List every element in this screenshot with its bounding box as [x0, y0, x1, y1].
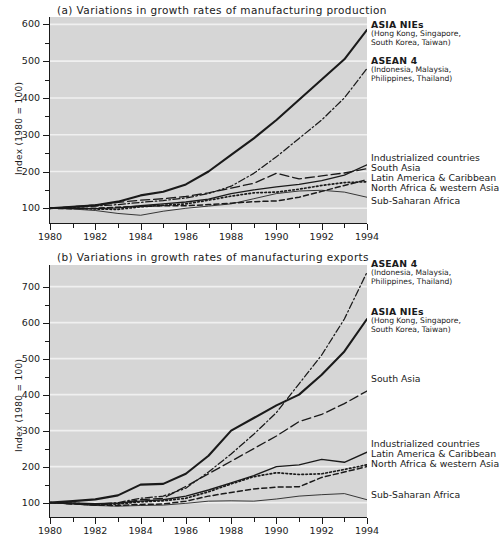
- y-tick-minor-650: [45, 305, 50, 306]
- legend-label: Sub-Saharan Africa: [371, 490, 460, 500]
- x-tick-minor-1985: [163, 224, 164, 228]
- x-tick-major-1988: [231, 224, 232, 230]
- series-line-sub-saharan-africa: [50, 190, 367, 215]
- chart-a-series-svg: [50, 17, 367, 223]
- legend-item-asia-nies[interactable]: ASIA NIEs(Hong Kong, Singapore,South Kor…: [371, 307, 461, 334]
- chart-a-title: (a) Variations in growth rates of manufa…: [57, 4, 387, 16]
- y-tick-label-500: 500: [3, 55, 40, 66]
- x-tick-label-1994: 1994: [345, 231, 389, 242]
- x-tick-major-1990: [276, 518, 277, 524]
- legend-item-sub-saharan-africa[interactable]: Sub-Saharan Africa: [371, 196, 460, 206]
- legend-label: South Asia: [371, 374, 420, 384]
- x-tick-minor-1983: [118, 518, 119, 522]
- y-tick-label-100: 100: [3, 497, 40, 508]
- legend-sublabel-2: South Korea, Taiwan): [371, 326, 461, 335]
- legend-item-asia-nies[interactable]: ASIA NIEs(Hong Kong, Singapore,South Kor…: [371, 20, 461, 47]
- x-tick-label-1986: 1986: [164, 231, 208, 242]
- y-tick-major-300: [43, 135, 50, 136]
- legend-label: North Africa & western Asia: [371, 459, 499, 469]
- y-tick-label-500: 500: [3, 353, 40, 364]
- chart-b-y-axis: [49, 265, 50, 518]
- x-tick-major-1982: [95, 518, 96, 524]
- y-tick-major-600: [43, 24, 50, 25]
- legend-label: Sub-Saharan Africa: [371, 196, 460, 206]
- x-tick-minor-1989: [254, 224, 255, 228]
- x-tick-label-1992: 1992: [300, 525, 344, 536]
- legend-item-north-africa-western-asia[interactable]: North Africa & western Asia: [371, 183, 499, 193]
- x-tick-major-1980: [50, 518, 51, 524]
- x-tick-label-1984: 1984: [119, 525, 163, 536]
- y-tick-label-100: 100: [3, 202, 40, 213]
- y-tick-minor-150: [45, 485, 50, 486]
- legend-sublabel-2: South Korea, Taiwan): [371, 39, 461, 48]
- x-tick-minor-1981: [73, 518, 74, 522]
- series-line-asean-4: [50, 69, 367, 209]
- y-tick-minor-450: [45, 80, 50, 81]
- y-tick-label-300: 300: [3, 129, 40, 140]
- legend-item-south-asia[interactable]: South Asia: [371, 374, 420, 384]
- y-tick-label-400: 400: [3, 389, 40, 400]
- chart-panel-b: (b) Variations in growth rates of manufa…: [0, 247, 499, 547]
- x-tick-label-1990: 1990: [254, 525, 298, 536]
- series-line-south-asia: [50, 391, 367, 505]
- figure-root: (a) Variations in growth rates of manufa…: [0, 0, 499, 559]
- y-tick-minor-550: [45, 341, 50, 342]
- x-tick-major-1994: [367, 224, 368, 230]
- x-tick-major-1984: [141, 224, 142, 230]
- chart-b-plot-area: [50, 265, 367, 517]
- chart-b-ylabel: Index (1980 = 100): [14, 359, 24, 452]
- x-tick-label-1994: 1994: [345, 525, 389, 536]
- x-tick-minor-1991: [299, 518, 300, 522]
- x-tick-label-1984: 1984: [119, 231, 163, 242]
- y-tick-major-400: [43, 98, 50, 99]
- x-tick-major-1988: [231, 518, 232, 524]
- x-tick-label-1982: 1982: [73, 231, 117, 242]
- legend-item-north-africa-western-asia[interactable]: North Africa & western Asia: [371, 459, 499, 469]
- series-line-south-asia: [50, 169, 367, 209]
- y-tick-minor-350: [45, 116, 50, 117]
- legend-item-asean-4[interactable]: ASEAN 4(Indonesia, Malaysia,Philippines,…: [371, 56, 452, 83]
- x-tick-major-1994: [367, 518, 368, 524]
- x-tick-major-1982: [95, 224, 96, 230]
- y-tick-major-500: [43, 61, 50, 62]
- chart-b-series-svg: [50, 265, 367, 517]
- y-tick-major-200: [43, 467, 50, 468]
- y-tick-label-400: 400: [3, 92, 40, 103]
- chart-panel-a: (a) Variations in growth rates of manufa…: [0, 0, 499, 252]
- y-tick-label-200: 200: [3, 166, 40, 177]
- y-tick-minor-450: [45, 377, 50, 378]
- x-tick-major-1980: [50, 224, 51, 230]
- y-tick-major-300: [43, 431, 50, 432]
- figure-footnote: [18, 552, 488, 559]
- x-tick-minor-1993: [344, 224, 345, 228]
- series-line-asia-nies: [50, 319, 367, 503]
- legend-sublabel-2: Philippines, Thailand): [371, 75, 452, 84]
- y-tick-minor-150: [45, 190, 50, 191]
- x-tick-major-1986: [186, 518, 187, 524]
- y-tick-major-100: [43, 503, 50, 504]
- x-tick-label-1986: 1986: [164, 525, 208, 536]
- y-tick-major-500: [43, 359, 50, 360]
- x-tick-label-1990: 1990: [254, 231, 298, 242]
- y-tick-major-100: [43, 208, 50, 209]
- x-tick-major-1992: [322, 518, 323, 524]
- y-tick-minor-350: [45, 413, 50, 414]
- chart-a-plot-area: [50, 17, 367, 223]
- x-tick-label-1980: 1980: [28, 525, 72, 536]
- x-tick-minor-1985: [163, 518, 164, 522]
- x-tick-minor-1987: [209, 518, 210, 522]
- y-tick-label-700: 700: [3, 281, 40, 292]
- legend-item-sub-saharan-africa[interactable]: Sub-Saharan Africa: [371, 490, 460, 500]
- y-tick-label-600: 600: [3, 317, 40, 328]
- x-tick-minor-1991: [299, 224, 300, 228]
- x-tick-minor-1987: [209, 224, 210, 228]
- x-tick-major-1984: [141, 518, 142, 524]
- y-tick-label-600: 600: [3, 18, 40, 29]
- x-tick-minor-1989: [254, 518, 255, 522]
- x-tick-label-1980: 1980: [28, 231, 72, 242]
- legend-item-asean-4[interactable]: ASEAN 4(Indonesia, Malaysia,Philippines,…: [371, 259, 452, 286]
- x-tick-label-1992: 1992: [300, 231, 344, 242]
- series-line-asean-4: [50, 272, 367, 504]
- x-tick-major-1986: [186, 224, 187, 230]
- chart-a-y-axis: [49, 17, 50, 224]
